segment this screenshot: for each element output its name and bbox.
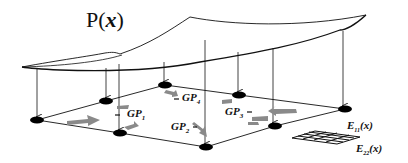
gp-sub: 1 — [142, 114, 146, 122]
gp1-label: GP1 — [127, 108, 145, 122]
gp4-label: GP4 — [182, 92, 200, 106]
e-arg: (x) — [360, 119, 373, 131]
e-arg: (x) — [369, 142, 382, 154]
title-var: x — [106, 7, 117, 32]
node — [99, 98, 113, 105]
flow-arrow — [252, 116, 268, 121]
surface-title: P(x) — [86, 9, 124, 31]
gp2-label: GP2 — [171, 121, 189, 135]
flow-arrow — [248, 122, 259, 125]
title-suffix: ) — [117, 7, 124, 32]
gp3-label: GP3 — [225, 106, 243, 120]
node — [199, 144, 213, 151]
gp-name: GP — [171, 120, 186, 132]
node — [232, 92, 246, 99]
surface-p — [22, 15, 366, 71]
title-prefix: P( — [86, 7, 106, 32]
flow-arrow — [67, 115, 100, 126]
flow-arrow — [222, 99, 232, 104]
node — [268, 123, 282, 130]
node — [30, 117, 44, 124]
gp-name: GP — [182, 91, 197, 103]
gp-sub: 2 — [186, 127, 190, 135]
diagram-canvas — [0, 0, 408, 163]
gp-sub: 3 — [240, 112, 244, 120]
node — [113, 130, 127, 137]
node — [158, 82, 172, 89]
gp-name: GP — [127, 107, 142, 119]
node — [338, 106, 352, 113]
diagram: P(x) GP1 GP2 GP3 GP4 E11(x) E22(x) — [0, 0, 408, 163]
flow-arrow — [164, 90, 178, 97]
e22-label: E22(x) — [356, 143, 382, 156]
flow-arrow — [268, 106, 297, 116]
e11-label: E11(x) — [347, 120, 373, 133]
flow-arrow — [124, 121, 139, 130]
gp-sub: 4 — [197, 98, 201, 106]
gp-name: GP — [225, 105, 240, 117]
